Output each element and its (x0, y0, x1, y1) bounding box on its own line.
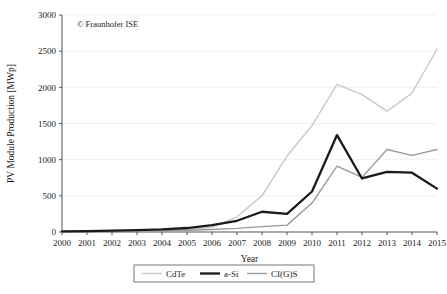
x-axis-title: Year (241, 254, 259, 264)
x-axis-tick-label: 2003 (128, 238, 147, 248)
x-axis-tick-label: 2014 (403, 238, 422, 248)
y-axis-tick-label: 3000 (38, 10, 57, 20)
y-axis-tick-label: 0 (52, 227, 57, 237)
x-axis-tick-label: 2013 (378, 238, 397, 248)
x-axis-tick-label: 2012 (353, 238, 371, 248)
y-axis-tick-label: 2000 (38, 83, 57, 93)
y-axis-tick-label: 500 (43, 191, 57, 201)
x-axis-tick-label: 2009 (278, 238, 297, 248)
x-axis-tick-label: 2008 (253, 238, 272, 248)
legend-label-ci-g-s[interactable]: CI(G)S (271, 269, 298, 279)
x-axis-tick-label: 2015 (428, 238, 447, 248)
chart-container: 0500100015002000250030002000200120022003… (0, 0, 447, 294)
x-axis-tick-label: 2011 (328, 238, 346, 248)
y-axis-tick-label: 2500 (38, 46, 57, 56)
x-axis-tick-label: 2006 (203, 238, 222, 248)
x-axis-tick-label: 2005 (178, 238, 197, 248)
x-axis-tick-label: 2001 (78, 238, 96, 248)
y-axis-tick-label: 1500 (38, 119, 57, 129)
x-axis-tick-label: 2004 (153, 238, 172, 248)
series-line-a-si (62, 135, 437, 231)
series-line-ci-g-s (62, 150, 437, 232)
copyright-annotation: © Fraunhofer ISE (77, 19, 138, 29)
legend-label-cdte[interactable]: CdTe (166, 269, 185, 279)
series-line-cdte (62, 49, 437, 232)
x-axis-tick-label: 2002 (103, 238, 121, 248)
legend-label-a-si[interactable]: a-Si (224, 269, 239, 279)
y-axis-title: PV Module Production [MWp] (6, 64, 16, 183)
x-axis-tick-label: 2000 (53, 238, 72, 248)
x-axis-tick-label: 2010 (303, 238, 322, 248)
pv-module-production-line-chart: 0500100015002000250030002000200120022003… (0, 0, 447, 294)
x-axis-tick-label: 2007 (228, 238, 247, 248)
y-axis-tick-label: 1000 (38, 155, 57, 165)
